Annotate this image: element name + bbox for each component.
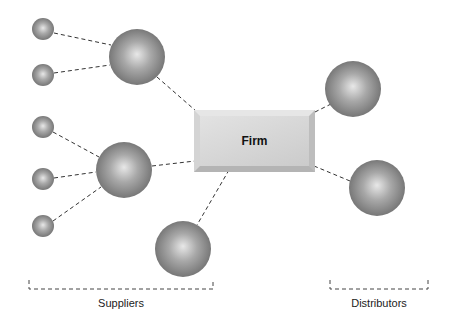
- sphere-node-s-small-3[interactable]: [32, 116, 54, 138]
- sphere-node-s-small-4[interactable]: [32, 168, 54, 190]
- firm-node[interactable]: Firm: [194, 110, 315, 172]
- edge-s-small-3-to-s-large-2: [53, 132, 99, 157]
- sphere-node-s-large-2[interactable]: [96, 142, 152, 198]
- sphere-node-d-large-1[interactable]: [325, 61, 381, 117]
- sphere-node-s-small-2[interactable]: [32, 64, 54, 86]
- sphere-node-d-large-2[interactable]: [349, 160, 405, 216]
- edge-firm-to-d-large-2: [314, 166, 350, 181]
- suppliers-label: Suppliers: [98, 297, 144, 309]
- edge-s-small-5-to-s-large-2: [53, 187, 101, 221]
- sphere-node-s-small-1[interactable]: [32, 18, 54, 40]
- edge-s-small-1-to-s-large-1: [54, 33, 111, 45]
- distributors-bracket: [330, 280, 428, 289]
- edge-s-small-2-to-s-large-1: [54, 65, 110, 73]
- distributors-label: Distributors: [351, 297, 407, 309]
- edge-firm-to-d-large-1: [315, 104, 331, 112]
- suppliers-bracket: [29, 280, 213, 289]
- sphere-node-s-small-5[interactable]: [32, 215, 54, 237]
- group-brackets: [29, 280, 428, 289]
- edge-s-small-4-to-s-large-2: [54, 172, 96, 178]
- firm-label: Firm: [241, 134, 267, 148]
- sphere-node-s-large-3[interactable]: [155, 221, 211, 277]
- edge-s-large-1-to-firm: [157, 77, 196, 111]
- edge-s-large-2-to-firm: [152, 161, 195, 166]
- sphere-node-s-large-1[interactable]: [109, 29, 165, 85]
- firm-node-face: Firm: [200, 116, 309, 166]
- edge-firm-to-s-large-3: [197, 170, 229, 225]
